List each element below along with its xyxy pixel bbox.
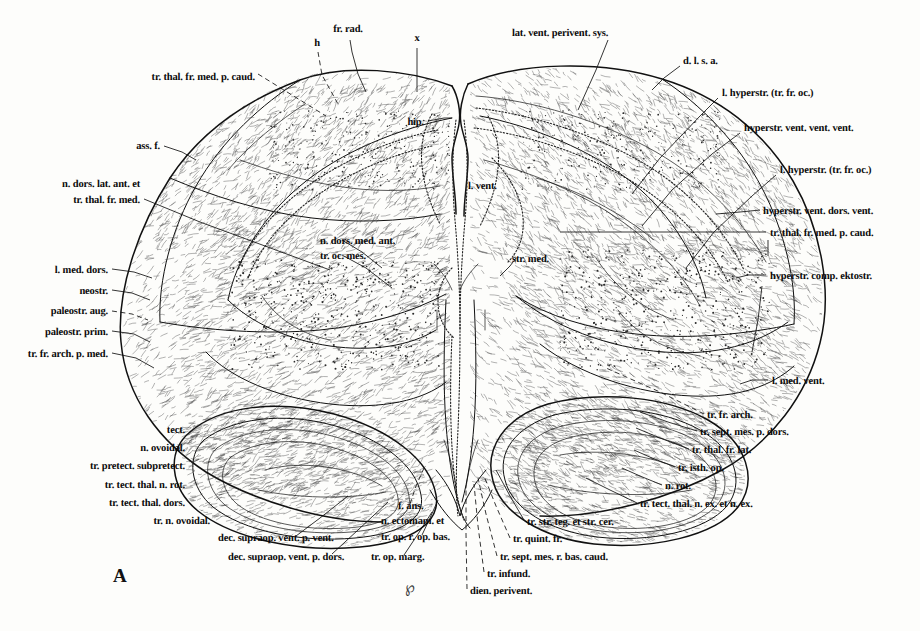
label-neostr: neostr. (79, 286, 108, 297)
label-n-dors-lat-ant-et: n. dors. lat. ant. et (62, 179, 140, 190)
label-paleostr-aug: paleostr. aug. (51, 306, 108, 317)
label-tr-fr-arch: tr. fr. arch. (707, 410, 753, 421)
left-paleostriatum (206, 296, 446, 406)
panel-letter-A: A (113, 565, 127, 587)
label-n-rot: n. rot. (665, 481, 691, 492)
label-tr-op-marg: tr. op. marg. (371, 552, 424, 563)
label-fr-rad: fr. rad. (333, 24, 363, 35)
label-d-l-s-a: d. l. s. a. (683, 56, 718, 67)
label-n-dors-med-ant: n. dors. med. ant. (320, 236, 395, 247)
label-hyperstr-vent-vent-vent: hyperstr. vent. vent. vent. (744, 123, 854, 134)
label-tr-op-r-op-bas: tr. op. r. op. bas. (381, 532, 450, 543)
anatomical-plate: tr. thal. fr. med. p. caud.ass. f.n. dor… (0, 0, 920, 631)
label-f-ans: f. ans. (398, 501, 424, 512)
label-tr-quint-fr: tr. quint. fr. (513, 534, 562, 545)
label-tect: tect. (167, 425, 185, 436)
label-dec-supraop-vent-p-vent: dec. supraop. vent. p. vent. (218, 533, 334, 544)
label-hyperstr-comp-ektostr: hyperstr. comp. ektostr. (770, 271, 872, 282)
label-l-hyperstr-tr-fr-oc-1: l. hyperstr. (tr. fr. oc.) (722, 88, 813, 99)
label-tr-str-teg-et-str-cer: tr. str. teg. et str. cer. (527, 517, 614, 528)
label-tr-fr-arch-p-med: tr. fr. arch. p. med. (28, 349, 108, 360)
label-l-hyperstr-tr-fr-oc-2: l. hyperstr. (tr. fr. oc.) (780, 165, 871, 176)
label-ass-f: ass. f. (136, 141, 160, 152)
label-tr-thal-fr-med: tr. thal. fr. med. (73, 195, 140, 206)
label-l-med-dors: l. med. dors. (55, 265, 108, 276)
label-tr-pretect-subpretect: tr. pretect. subpretect. (90, 461, 185, 472)
right-ektostriatum (516, 258, 794, 396)
label-str-med: str. med. (512, 254, 549, 265)
label-tr-thal-fr-med-p-caud-right: tr. thal. fr. med. p. caud. (770, 228, 873, 239)
label-lat-vent-perivent-sys: lat. vent. perivent. sys. (512, 28, 608, 39)
label-x: x (414, 33, 419, 44)
label-tr-isth-op: tr. isth. op. (678, 463, 724, 474)
label-dec-supraop-vent-p-dors: dec. supraop. vent. p. dors. (228, 552, 344, 563)
label-tr-sept-mes-r-bas-caud: tr. sept. mes. r. bas. caud. (500, 552, 608, 563)
label-tr-sept-mes-p-dors: tr. sept. mes. p. dors. (700, 427, 789, 438)
label-h: h (314, 38, 320, 49)
label-n-ectomam-et: n. ectomam. et (381, 516, 444, 527)
label-hip: hip. (407, 117, 424, 128)
label-tr-tect-thal-n-ex-et-n-ex: tr. tect. thal. n. ex. et n. ex. (640, 499, 753, 510)
label-dien-perivent: dien. perivent. (470, 586, 532, 597)
label-l-vent: l. vent. (468, 181, 497, 192)
label-hyperstr-vent-dors-vent: hyperstr. vent. dors. vent. (763, 206, 873, 217)
label-tr-thal-fr-lat: tr. thal. fr. lat. (692, 445, 751, 456)
label-tr-infund: tr. infund. (487, 569, 530, 580)
label-n-ovoidal: n. ovoidal. (140, 443, 185, 454)
label-tr-oc-mes: tr. oc. mes. (320, 251, 366, 262)
midline-ventricle (421, 84, 523, 530)
label-l-med-vent: l. med. vent. (772, 376, 825, 387)
label-tr-tect-thal-n-rot: tr. tect. thal. n. rot. (105, 480, 185, 491)
label-tr-n-ovoidal: tr. n. ovoidal. (153, 516, 210, 527)
label-paleostr-prim: paleostr. prim. (45, 327, 108, 338)
label-tr-thal-fr-med-p-caud-left: tr. thal. fr. med. p. caud. (152, 72, 255, 83)
label-tr-tect-thal-dors: tr. tect. thal. dors. (109, 498, 185, 509)
